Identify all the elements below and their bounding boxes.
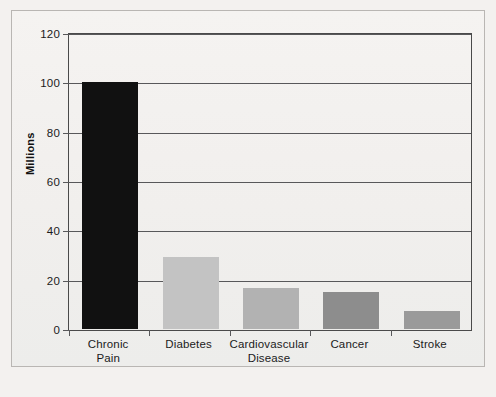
- y-axis-tick-label: 20: [47, 275, 60, 287]
- bar-slot: [231, 34, 311, 329]
- y-axis-title: Millions: [24, 132, 36, 175]
- y-axis-tick-label: 80: [47, 127, 60, 139]
- x-axis-category-label-line: Disease: [229, 352, 309, 366]
- x-axis-category-label-line: Chronic: [68, 338, 148, 352]
- x-axis-category-label: ChronicPain: [68, 338, 148, 365]
- y-axis-tick-label: 120: [40, 28, 60, 40]
- y-axis-tick: [63, 83, 69, 84]
- bar-slot: [311, 34, 391, 329]
- y-axis-tick-label: 0: [53, 324, 60, 336]
- y-axis-tick: [63, 133, 69, 134]
- x-axis-labels: ChronicPainDiabetesCardiovascularDisease…: [68, 338, 472, 372]
- bar-slot: [392, 34, 472, 329]
- y-axis-tick: [63, 182, 69, 183]
- x-axis-tick: [149, 330, 150, 336]
- x-axis-tick: [230, 330, 231, 336]
- x-axis-category-label: Diabetes: [148, 338, 228, 352]
- y-axis-tick-label: 40: [47, 225, 60, 237]
- x-axis-category-label: Cancer: [309, 338, 389, 352]
- y-axis-tick-label: 100: [40, 77, 60, 89]
- bar[interactable]: [323, 292, 379, 329]
- x-axis-tick: [69, 330, 70, 336]
- bar[interactable]: [82, 82, 138, 329]
- bar-series: [70, 34, 470, 329]
- y-axis-tick: [63, 34, 69, 35]
- bar[interactable]: [243, 288, 299, 329]
- x-axis-tick: [310, 330, 311, 336]
- y-axis-tick-label: 60: [47, 176, 60, 188]
- chart-page: Millions 020406080100120 ChronicPainDiab…: [0, 0, 496, 397]
- x-axis-category-label: Stroke: [390, 338, 470, 352]
- x-axis-category-label-line: Diabetes: [148, 338, 228, 352]
- y-axis-tick: [63, 231, 69, 232]
- x-axis-category-label-line: Pain: [68, 352, 148, 366]
- x-axis-category-label: CardiovascularDisease: [229, 338, 309, 365]
- y-axis-tick: [63, 281, 69, 282]
- x-axis-tick: [391, 330, 392, 336]
- bar[interactable]: [404, 311, 460, 330]
- x-axis-category-label-line: Stroke: [390, 338, 470, 352]
- x-axis-category-label-line: Cancer: [309, 338, 389, 352]
- plot-area: 020406080100120: [68, 33, 472, 331]
- bar-slot: [150, 34, 230, 329]
- bar-slot: [70, 34, 150, 329]
- bar[interactable]: [163, 257, 219, 329]
- x-axis-category-label-line: Cardiovascular: [229, 338, 309, 352]
